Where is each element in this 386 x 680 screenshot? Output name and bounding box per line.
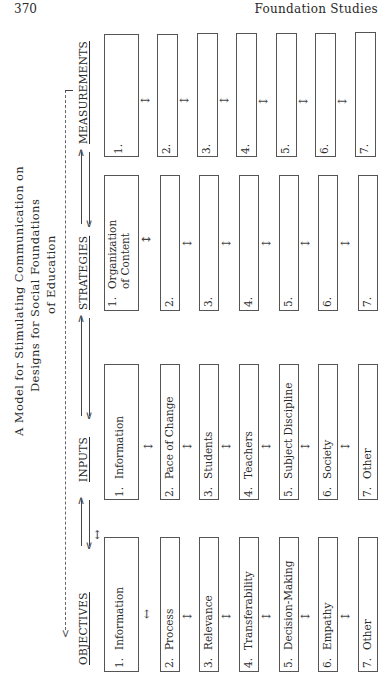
- connector-strategies-measurements-down: [89, 152, 90, 224]
- double-arrow-icon: ↔: [179, 94, 189, 106]
- heading-objectives: OBJECTIVES: [77, 592, 89, 665]
- running-head: Foundation Studies: [254, 2, 378, 16]
- double-arrow-icon: ↔: [141, 233, 151, 245]
- double-arrow-icon: ↔: [261, 440, 271, 452]
- objective-label-7: 7.Other: [361, 619, 373, 668]
- heading-inputs: INPUTS: [77, 437, 89, 482]
- objective-label-3: 3.Relevance: [202, 595, 214, 668]
- objective-label-1: 1.Information: [113, 587, 125, 668]
- strategy-label-3: 3.: [202, 289, 214, 307]
- feedback-top-tick: [65, 90, 73, 91]
- strategy-label-6: 6.: [321, 289, 333, 307]
- double-arrow-icon: ↔: [258, 95, 268, 107]
- arrow-down-icon: ∨: [85, 410, 93, 421]
- objective-label-2: 2.Process: [163, 609, 175, 668]
- input-label-1: 1.Information: [113, 416, 125, 497]
- double-arrow-icon: ↔: [300, 237, 310, 249]
- measurement-label-2: 2.: [160, 136, 172, 154]
- strategy-label-2: 2.: [163, 289, 175, 307]
- double-arrow-icon: ↔: [261, 237, 271, 249]
- double-arrow-icon: ↔: [221, 237, 231, 249]
- feedback-dashed-line: [65, 90, 66, 630]
- double-arrow-icon: ↔: [300, 440, 310, 452]
- input-label-7: 7.Other: [361, 448, 373, 497]
- connector-strategies-measurements-up: [81, 152, 82, 224]
- double-arrow-icon: ↔: [182, 440, 192, 452]
- input-label-3: 3.Students: [202, 432, 214, 497]
- diagram-title-line-1: A Model for Stimulating Communication on: [12, 166, 26, 436]
- arrow-down-icon: ∨: [85, 218, 93, 229]
- double-arrow-icon: ↔: [340, 610, 350, 622]
- double-arrow-icon: ↔: [340, 440, 350, 452]
- connector-inputs-strategies-up: [81, 318, 82, 416]
- double-arrow-icon: ↔: [143, 440, 153, 452]
- connector-inputs-strategies-down: [89, 318, 90, 416]
- measurement-label-3: 3.: [200, 136, 212, 154]
- double-arrow-icon: ↔: [141, 609, 153, 619]
- feedback-arrow-icon: >: [60, 629, 71, 638]
- input-label-4: 4.Teachers: [242, 431, 254, 497]
- measurement-label-5: 5.: [279, 136, 291, 154]
- double-arrow-icon: ↔: [219, 94, 229, 106]
- objective-label-6: 6.Empathy: [321, 602, 333, 668]
- double-arrow-icon: ↔: [300, 610, 310, 622]
- input-label-2: 2.Pace of Change: [163, 396, 175, 497]
- double-arrow-icon: ↔: [221, 610, 231, 622]
- strategy-label-4: 4.: [242, 289, 254, 307]
- strategy-label-1: 1.Organizationof Content: [106, 220, 132, 307]
- double-arrow-icon: ↔: [182, 610, 192, 622]
- strategy-label-1-line2: of Content: [119, 233, 131, 289]
- arrow-up-icon: ∧: [77, 495, 85, 506]
- diagram-title-line-3: of Education: [44, 235, 58, 314]
- double-arrow-icon: ↔: [298, 95, 308, 107]
- input-label-6: 6.Society: [321, 440, 333, 497]
- arrow-up-icon: ∧: [77, 313, 85, 324]
- input-label-5: 5.Subject Discipline: [282, 383, 294, 497]
- strategy-label-5: 5.: [282, 289, 294, 307]
- strategy-label-7: 7.: [361, 289, 373, 307]
- objective-label-5: 5.Decision-Making: [282, 561, 294, 668]
- double-arrow-icon: ↔: [337, 95, 347, 107]
- objective-label-4: 4.Transferability: [242, 571, 254, 668]
- page-number: 370: [14, 2, 37, 16]
- double-arrow-icon: ↔: [261, 610, 271, 622]
- arrow-up-icon: ∧: [77, 147, 85, 158]
- measurement-label-1: 1.: [112, 136, 124, 154]
- arrow-updown-icon: ↕: [92, 530, 102, 541]
- heading-strategies: STRATEGIES: [77, 236, 89, 310]
- double-arrow-icon: ↔: [221, 440, 231, 452]
- double-arrow-icon: ↔: [140, 94, 150, 106]
- measurement-label-6: 6.: [318, 136, 330, 154]
- double-arrow-icon: ↔: [340, 237, 350, 249]
- measurement-label-4: 4.: [239, 136, 251, 154]
- heading-measurements: MEASUREMENTS: [77, 41, 89, 144]
- measurement-label-7: 7.: [358, 136, 370, 154]
- diagram-title-line-2: Designs for Social Foundations: [28, 199, 42, 392]
- double-arrow-icon: ↔: [182, 237, 192, 249]
